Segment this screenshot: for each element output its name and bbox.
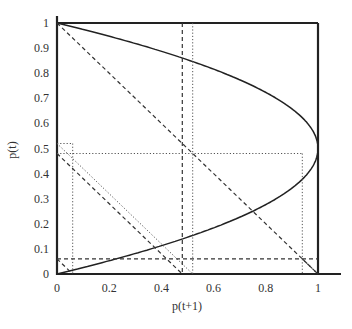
x-tick-label: 0.8 [258, 281, 273, 295]
y-tick-label: 0.9 [34, 41, 49, 55]
series-logistic-curve-p-t-vs-p-t-1- [57, 23, 318, 274]
y-tick-label: 0 [43, 267, 49, 281]
series-diagonal-0-48 [57, 154, 182, 275]
y-tick-label: 0.1 [34, 242, 49, 256]
series-diagonal-1 [57, 23, 318, 274]
y-tick-label: 1 [43, 16, 49, 30]
series-diagonal-0-52 [57, 144, 193, 275]
x-tick-label: 0.4 [154, 281, 169, 295]
plot-area [56, 16, 341, 275]
y-axis-label: p(t) [5, 141, 19, 158]
y-tick-label: 0.4 [34, 167, 49, 181]
x-tick-label: 1 [315, 281, 321, 295]
x-axis-ticks: 00.20.40.60.81 [54, 281, 321, 295]
y-tick-label: 0.5 [34, 142, 49, 156]
y-tick-label: 0.3 [34, 192, 49, 206]
y-axis-ticks: 00.10.20.30.40.50.60.70.80.91 [34, 16, 49, 281]
y-tick-label: 0.2 [34, 217, 49, 231]
cobweb-chart: 00.10.20.30.40.50.60.70.80.91 00.20.40.6… [0, 0, 352, 329]
y-tick-label: 0.6 [34, 116, 49, 130]
x-tick-label: 0.6 [206, 281, 221, 295]
x-tick-label: 0.2 [102, 281, 117, 295]
x-axis-label: p(t+1) [172, 299, 202, 313]
y-tick-label: 0.8 [34, 66, 49, 80]
x-tick-label: 0 [54, 281, 60, 295]
y-tick-label: 0.7 [34, 91, 49, 105]
